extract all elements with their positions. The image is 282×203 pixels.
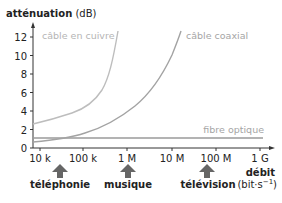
x-tick-label: 1 M (118, 153, 136, 164)
y-tick-label: 8 (21, 69, 27, 80)
y-tick-label: 2 (21, 125, 27, 136)
y-tick-label: 12 (14, 32, 27, 43)
y-tick-label: 10 (14, 51, 27, 62)
copper-label: câble en cuivre (42, 30, 115, 41)
series-cable-coaxial (33, 31, 181, 142)
y-axis-arrow-icon (31, 22, 35, 28)
musique-label: musique (104, 179, 152, 190)
fibre-label: fibre optique (203, 124, 264, 135)
up-arrow-icon (120, 164, 136, 178)
y-axis-title: atténuation (dB) (6, 8, 97, 19)
television-annotation: télévision (180, 164, 235, 190)
x-axis-arrow-icon (269, 146, 275, 150)
musique-annotation: musique (104, 164, 152, 190)
up-arrow-icon (199, 164, 215, 178)
x-axis-unit: (bit·s−1) (237, 178, 277, 190)
x-tick-label: 1 G (251, 153, 268, 164)
x-tick-label: 10 M (160, 153, 185, 164)
y-ticks: 0 2 4 6 8 10 12 (14, 32, 33, 154)
series-cable-cuivre (33, 31, 118, 124)
x-tick-label: 100 k (69, 153, 97, 164)
x-ticks: 10 k 100 k 1 M 10 M 100 M 1 G (29, 148, 269, 164)
attenuation-chart: atténuation (dB) 0 2 4 6 8 10 12 10 k 10… (0, 0, 282, 203)
telephonie-label: téléphonie (30, 179, 90, 190)
up-arrow-icon (52, 164, 68, 178)
x-tick-label: 10 k (29, 153, 51, 164)
coax-label: câble coaxial (186, 30, 248, 41)
y-tick-label: 0 (21, 143, 27, 154)
television-label: télévision (180, 179, 235, 190)
y-tick-label: 6 (21, 88, 27, 99)
telephonie-annotation: téléphonie (30, 164, 90, 190)
x-tick-label: 100 M (201, 153, 232, 164)
y-tick-label: 4 (21, 106, 27, 117)
x-axis-title: débit (246, 167, 276, 178)
